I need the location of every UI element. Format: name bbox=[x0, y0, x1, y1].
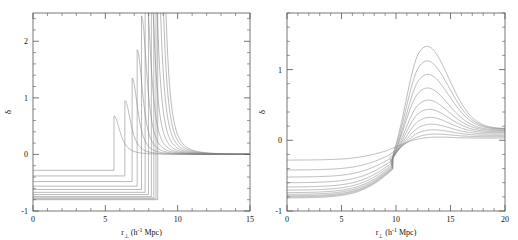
x-axis-label: r⊥ (h-1 Mpc) bbox=[376, 227, 417, 239]
data-curve bbox=[33, 16, 250, 190]
two-panel-plot: 051015-1012r⊥ (h-1 Mpc)δ05101520-101r⊥ (… bbox=[0, 0, 518, 240]
plot-frame bbox=[287, 13, 505, 211]
y-axis-label: δ bbox=[257, 110, 267, 114]
curves-left bbox=[33, 0, 250, 200]
panel-left: 051015-1012r⊥ (h-1 Mpc)δ bbox=[3, 0, 254, 239]
x-tick-label: 5 bbox=[103, 215, 107, 224]
x-tick-label: 20 bbox=[501, 215, 509, 224]
x-tick-label: 15 bbox=[447, 215, 455, 224]
y-tick-label: -1 bbox=[21, 207, 28, 216]
y-tick-label: 0 bbox=[278, 136, 282, 145]
data-curve bbox=[287, 88, 505, 194]
y-tick-label: -1 bbox=[275, 207, 282, 216]
x-axis-label: r⊥ (h-1 Mpc) bbox=[121, 227, 162, 239]
y-tick-label: 1 bbox=[24, 94, 28, 103]
x-tick-label: 10 bbox=[174, 215, 182, 224]
x-tick-label: 0 bbox=[285, 215, 289, 224]
x-tick-label: 0 bbox=[31, 215, 35, 224]
x-tick-label: 15 bbox=[246, 215, 254, 224]
y-tick-label: 1 bbox=[278, 66, 282, 75]
data-curve bbox=[287, 74, 505, 195]
y-tick-label: 2 bbox=[24, 37, 28, 46]
x-tick-label: 10 bbox=[392, 215, 400, 224]
curves-right bbox=[287, 46, 505, 198]
y-axis-label: δ bbox=[3, 110, 13, 114]
y-tick-label: 0 bbox=[24, 150, 28, 159]
x-tick-label: 5 bbox=[340, 215, 344, 224]
panel-right: 05101520-101r⊥ (h-1 Mpc)δ bbox=[257, 13, 509, 239]
figure-container: 051015-1012r⊥ (h-1 Mpc)δ05101520-101r⊥ (… bbox=[0, 0, 518, 240]
